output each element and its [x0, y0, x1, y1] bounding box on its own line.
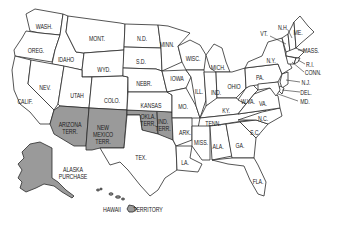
label-la: LA.: [181, 159, 189, 166]
label-kansas: KANSAS: [141, 102, 162, 109]
label-wisc: WISC.: [186, 55, 201, 62]
label-nev: NEV.: [39, 84, 50, 91]
label-sc: S.C.: [250, 129, 260, 136]
label-idaho: IDAHO: [58, 56, 74, 63]
label-nd: N.D.: [137, 35, 147, 42]
label-ill: ILL.: [195, 88, 203, 95]
label-ind: IND.: [211, 89, 221, 96]
label-tex: TEX.: [135, 154, 146, 161]
label-indterr: IND.TERR.: [155, 118, 170, 132]
label-ga: GA.: [236, 142, 245, 149]
label-nh: N.H.: [278, 24, 288, 31]
label-ny: N.Y.: [266, 57, 275, 64]
label-mo: MO.: [178, 103, 188, 110]
state-wyoming: [82, 50, 124, 77]
label-mont: MONT.: [89, 35, 105, 42]
label-nj: N.J.: [302, 79, 311, 86]
label-tenn: TENN.: [205, 120, 220, 127]
us-territories-map: [0, 0, 344, 228]
label-sd: S.D.: [136, 58, 146, 65]
label-hawaii: HAWAII: [103, 206, 121, 213]
label-vt: VT.: [260, 30, 267, 37]
label-hawterr: TERRITORY: [133, 206, 162, 213]
label-conn: CONN.: [305, 69, 321, 76]
label-calif: CALIF.: [17, 98, 32, 105]
label-wyo: WYD.: [97, 66, 110, 73]
label-del: DEL.: [300, 89, 311, 96]
label-ala: ALA.: [212, 143, 223, 150]
label-nm: NEWMEXICOTERR.: [93, 124, 113, 145]
label-me: ME.: [293, 29, 302, 36]
label-minn: MINN.: [160, 41, 174, 48]
label-va: VA.: [259, 100, 267, 107]
label-mass: MASS.: [303, 47, 319, 54]
label-ariz: ARIZONATERR.: [59, 121, 82, 135]
state-colorado: [89, 76, 128, 110]
label-iowa: IOWA: [170, 75, 183, 82]
label-fla: FLA.: [253, 178, 264, 185]
label-nebr: NEBR.: [136, 80, 152, 87]
label-pa: PA.: [256, 74, 264, 81]
label-utah: UTAH: [70, 92, 84, 99]
label-wva: W.VA.: [241, 98, 255, 105]
label-oreg: OREG.: [28, 47, 44, 54]
label-mich: MICH.: [211, 64, 225, 71]
label-alaska: ALASKAPURCHASE: [59, 166, 87, 180]
label-wash: WASH.: [36, 23, 53, 30]
label-ky: KY.: [222, 107, 230, 114]
label-okla: OKLA.TERR.: [140, 113, 155, 127]
label-md: MD.: [300, 98, 309, 105]
label-miss: MISS.: [194, 139, 208, 146]
label-ri: R.I.: [306, 61, 314, 68]
label-nc: N.C.: [258, 115, 268, 122]
label-ark: ARK.: [179, 129, 191, 136]
label-colo: COLO.: [104, 97, 120, 104]
label-ohio: OHIO: [227, 83, 240, 90]
